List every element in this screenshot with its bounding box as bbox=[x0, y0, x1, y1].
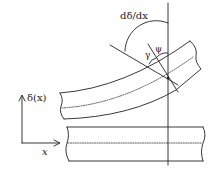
reference-point bbox=[167, 77, 169, 79]
undeformed-beam bbox=[66, 127, 205, 161]
normal-line bbox=[148, 44, 178, 92]
slope-label: dδ/dx bbox=[120, 10, 148, 21]
deformed-beam bbox=[60, 41, 201, 119]
deflection-axis-label: δ(x) bbox=[27, 92, 47, 103]
deformed-beam-bottom-edge bbox=[64, 90, 176, 119]
diagram-canvas: dδ/dx γ ψ δ(x) x bbox=[0, 0, 212, 170]
x-axis-label: x bbox=[42, 146, 48, 157]
psi-label: ψ bbox=[155, 44, 162, 54]
gamma-label: γ bbox=[145, 50, 150, 60]
